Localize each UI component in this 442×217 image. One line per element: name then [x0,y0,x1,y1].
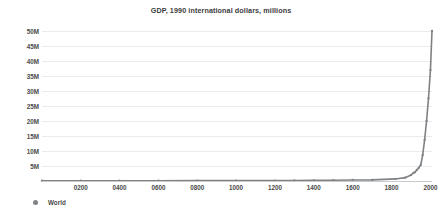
legend-label-world: World [48,199,66,206]
x-axis-tick-label: 1800 [385,184,399,191]
x-axis-tick-label: 1000 [229,184,243,191]
y-axis-tick-label: 25M [3,103,39,110]
plot-area [42,31,432,181]
x-axis-tick-label: 1600 [346,184,360,191]
y-axis-tick-label: 35M [3,73,39,80]
x-axis-tick-label: 0600 [151,184,165,191]
x-axis-tick-label: 0200 [74,184,88,191]
series-layer [42,31,432,181]
series-point [404,177,406,179]
series-point [429,69,431,71]
series-point [431,30,433,32]
y-axis-tick-label: 15M [3,133,39,140]
x-axis-line [42,181,432,182]
x-axis-tick-label: 2000 [423,184,437,191]
x-axis-tick-labels: 0200040006000800100012001400160018002000 [42,184,432,196]
y-axis-tick-label: 45M [3,43,39,50]
y-axis-tick-label: 40M [3,58,39,65]
series-point [423,139,425,141]
series-point [422,154,424,156]
x-axis-tick-label: 0800 [190,184,204,191]
series-line-world [42,31,432,181]
chart-legend: World [33,199,66,206]
y-axis-tick-label: 10M [3,148,39,155]
series-point [427,97,429,99]
series-point [394,178,396,180]
y-axis-tick-label: 50M [3,28,39,35]
chart-title: GDP, 1990 international dollars, million… [0,6,442,15]
y-axis-tick-label: 30M [3,88,39,95]
x-axis-tick-label: 1400 [307,184,321,191]
y-axis-tick-label: 5M [3,163,39,170]
series-point [410,174,412,176]
series-point [425,120,427,122]
series-point [420,164,422,166]
series-point [416,169,418,171]
chart-container: GDP, 1990 international dollars, million… [0,0,442,217]
series-point [418,167,420,169]
series-point [414,171,416,173]
legend-marker-icon [33,200,38,205]
y-axis-tick-label: 20M [3,118,39,125]
x-axis-tick-label: 0400 [113,184,127,191]
y-axis-tick-labels: 50M45M40M35M30M25M20M15M10M5M [0,0,39,217]
x-axis-tick-label: 1200 [268,184,282,191]
